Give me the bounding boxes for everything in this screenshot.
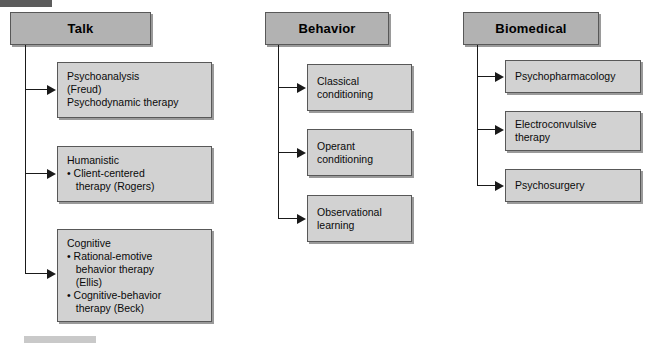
- arrowhead-icon-psychoanalysis: [47, 85, 56, 95]
- detail-line: behavior therapy: [67, 263, 211, 276]
- detail-line: Observational: [317, 206, 411, 219]
- header-box-talk[interactable]: Talk: [10, 12, 151, 45]
- detail-box-observational-learning[interactable]: Observational learning: [307, 195, 412, 242]
- crop-artifact-bar-bottom: [24, 336, 96, 343]
- header-label-talk: Talk: [68, 22, 94, 35]
- connector-trunk-behavior: [278, 45, 279, 218]
- arrowhead-icon-humanistic: [47, 169, 56, 179]
- detail-line: (Ellis): [67, 276, 211, 289]
- detail-line: Humanistic: [67, 154, 211, 167]
- detail-line: • Cognitive-behavior: [67, 289, 211, 302]
- detail-box-psychopharmacology[interactable]: Psychopharmacology: [505, 60, 641, 93]
- detail-line: • Rational-emotive: [67, 250, 211, 263]
- detail-line: • Client-centered: [67, 167, 211, 180]
- arrowhead-icon-operant-conditioning: [297, 148, 306, 158]
- detail-box-cognitive[interactable]: Cognitive • Rational-emotive behavior th…: [57, 229, 212, 322]
- arrowhead-icon-cognitive: [47, 269, 56, 279]
- arrowhead-icon-psychosurgery: [495, 181, 504, 191]
- header-box-behavior[interactable]: Behavior: [265, 12, 389, 45]
- connector-trunk-talk: [25, 45, 26, 273]
- detail-box-operant-conditioning[interactable]: Operant conditioning: [307, 129, 412, 176]
- detail-line: Psychoanalysis: [67, 70, 211, 83]
- arrowhead-icon-electroconvulsive-therapy: [495, 125, 504, 135]
- detail-line: Classical: [317, 75, 411, 88]
- detail-line: Psychopharmacology: [515, 70, 640, 83]
- detail-line: Psychosurgery: [515, 179, 640, 192]
- crop-artifact-bar-top: [0, 0, 52, 7]
- header-label-biomedical: Biomedical: [495, 22, 566, 35]
- detail-line: Electroconvulsive: [515, 118, 640, 131]
- arrowhead-icon-psychopharmacology: [495, 72, 504, 82]
- arrowhead-icon-observational-learning: [297, 214, 306, 224]
- detail-line: conditioning: [317, 153, 411, 166]
- diagram-canvas: Talk Psychoanalysis (Freud) Psychodynami…: [0, 0, 655, 348]
- connector-trunk-biomedical: [477, 45, 478, 185]
- detail-line: therapy: [515, 131, 640, 144]
- detail-box-humanistic[interactable]: Humanistic • Client-centered therapy (Ro…: [57, 146, 212, 202]
- detail-line: Cognitive: [67, 237, 211, 250]
- detail-line: Psychodynamic therapy: [67, 96, 211, 109]
- detail-line: learning: [317, 219, 411, 232]
- detail-box-psychoanalysis[interactable]: Psychoanalysis (Freud) Psychodynamic the…: [57, 62, 212, 118]
- detail-line: conditioning: [317, 88, 411, 101]
- detail-line: therapy (Rogers): [67, 180, 211, 193]
- detail-box-psychosurgery[interactable]: Psychosurgery: [505, 169, 641, 202]
- detail-line: (Freud): [67, 83, 211, 96]
- detail-line: Operant: [317, 140, 411, 153]
- header-label-behavior: Behavior: [298, 22, 355, 35]
- detail-line: therapy (Beck): [67, 302, 211, 315]
- header-box-biomedical[interactable]: Biomedical: [463, 12, 599, 45]
- arrowhead-icon-classical-conditioning: [297, 83, 306, 93]
- detail-box-classical-conditioning[interactable]: Classical conditioning: [307, 64, 412, 111]
- detail-box-electroconvulsive-therapy[interactable]: Electroconvulsive therapy: [505, 111, 641, 151]
